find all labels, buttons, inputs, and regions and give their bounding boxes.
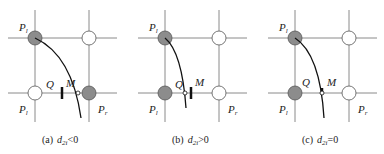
- caption-b: (b)d2i>0: [172, 134, 209, 147]
- label-p-bottom-left: Pl: [18, 103, 28, 117]
- panel-a: Pl Pl Pr Q M (a)d2i<0: [8, 10, 117, 147]
- caption-a: (a)d2i<0: [42, 134, 78, 147]
- label-p-top-left: Pl: [148, 21, 158, 35]
- panel-b: Pl Pl Pr Q M (b)d2i>0: [138, 10, 247, 147]
- caption-c: (c)d2i=0: [302, 134, 338, 147]
- label-q: Q: [175, 78, 183, 90]
- label-m: M: [65, 77, 76, 89]
- label-p-bottom-left: Pl: [278, 103, 288, 117]
- panel-c: Pl Pl Pr Q M (c)d2i=0: [268, 10, 377, 147]
- pixel-bottom-right-open: [342, 86, 356, 100]
- label-p-bottom-left: Pl: [148, 103, 158, 117]
- pixel-bottom-right-filled: [82, 86, 96, 100]
- pixel-bottom-left-open: [28, 86, 42, 100]
- label-q: Q: [46, 78, 54, 90]
- intersection-point: [76, 91, 80, 95]
- pixel-bottom-right-open: [212, 86, 226, 100]
- label-p-bottom-right: Pr: [97, 103, 108, 117]
- pixel-top-right-open: [342, 31, 356, 45]
- pixel-top-right-open: [82, 31, 96, 45]
- pixel-bottom-left-filled: [288, 86, 302, 100]
- intersection-point: [320, 91, 324, 95]
- midpoint-circle-figure: Pl Pl Pr Q M (a)d2i<0 Pl Pl Pr Q M (b)d2…: [0, 0, 384, 154]
- label-q: Q: [302, 76, 310, 88]
- intersection-point: [183, 91, 187, 95]
- label-p-top-left: Pl: [18, 21, 28, 35]
- label-m: M: [194, 76, 205, 88]
- label-p-bottom-right: Pr: [357, 103, 368, 117]
- pixel-top-right-open: [212, 31, 226, 45]
- pixel-bottom-left-filled: [158, 86, 172, 100]
- label-m: M: [326, 76, 337, 88]
- label-p-bottom-right: Pr: [227, 103, 238, 117]
- diagram-canvas: Pl Pl Pr Q M (a)d2i<0 Pl Pl Pr Q M (b)d2…: [0, 0, 384, 154]
- label-p-top-left: Pl: [278, 21, 288, 35]
